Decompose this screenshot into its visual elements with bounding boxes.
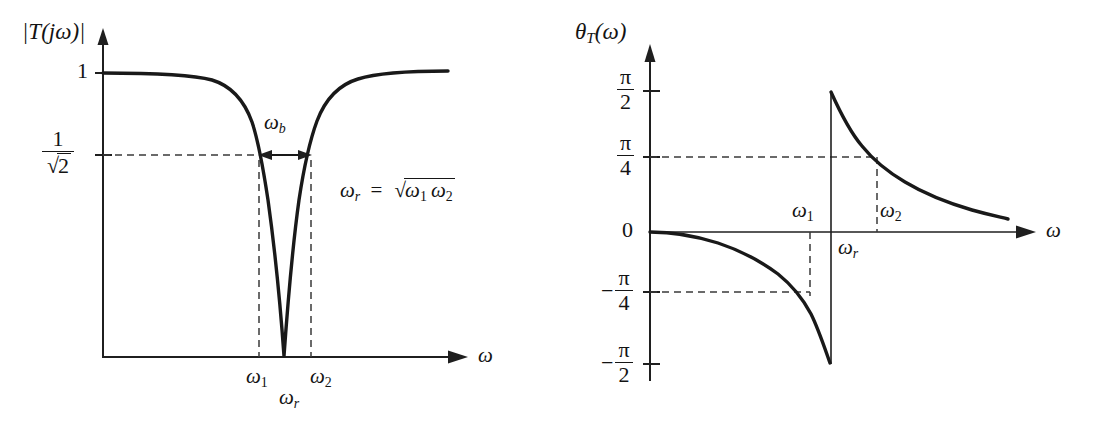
bandwidth-label-omega-b: ωb [264,112,286,136]
magnitude-xtick-label-omega2: ω2 [310,366,332,390]
magnitude-y-axis-arrowhead [98,28,109,45]
figure-root: |T(jω)| 1 1 √2 ωb ωr = √ω1ω2 ω1 ωr ω2 ω … [0,0,1102,429]
phase-y-axis-label: θT(ω) [575,20,626,45]
phase-xtick-label-omega-r: ωr [838,237,858,261]
fraction-denominator: √2 [42,152,74,177]
minus-sign: − [601,280,615,302]
phase-curve-lower-branch [650,232,830,363]
resonant-frequency-formula: ωr = √ω1ω2 [340,178,455,204]
phase-ytick-label-zero: 0 [622,219,633,241]
fraction-numerator: 1 [42,128,74,152]
fraction-numerator: π [617,66,634,90]
figure-drawing [0,0,1102,429]
fraction-denominator: 4 [615,291,632,314]
magnitude-xtick-label-omega1: ω1 [246,366,268,390]
magnitude-xtick-label-omega-r: ωr [279,387,299,411]
fraction-denominator: 2 [615,363,632,386]
magnitude-ytick-label-one: 1 [77,60,88,82]
phase-ytick-label-pi-over-4: π 4 [617,132,634,179]
fraction-numerator: π [615,267,632,291]
fraction-numerator: π [617,132,634,156]
phase-curve-upper-branch [831,92,1008,219]
fraction-denominator: 2 [617,90,634,113]
magnitude-ytick-label-one-over-root-two: 1 √2 [42,128,74,177]
magnitude-x-axis-label: ω [478,345,493,366]
phase-y-axis-arrowhead [645,44,656,62]
phase-ytick-label-neg-pi-over-2: − π 2 [601,339,633,386]
magnitude-x-axis-arrowhead [448,351,468,364]
fraction-numerator: π [615,339,632,363]
phase-ytick-label-neg-pi-over-4: − π 4 [601,267,633,314]
minus-sign: − [601,352,615,374]
phase-xtick-label-omega2: ω2 [880,200,902,224]
phase-x-axis-label: ω [1046,220,1061,241]
phase-x-axis-arrowhead [1016,226,1036,239]
magnitude-y-axis-label: |T(jω)| [22,20,85,43]
phase-ytick-label-pi-over-2: π 2 [617,66,634,113]
phase-plot-group [643,44,1036,380]
phase-xtick-label-omega1: ω1 [792,200,814,224]
fraction-denominator: 4 [617,156,634,179]
